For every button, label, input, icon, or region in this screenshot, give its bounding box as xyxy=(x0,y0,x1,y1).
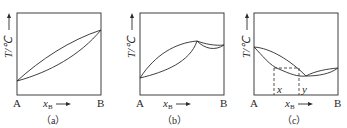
x-axis-arrow-icon xyxy=(56,102,71,106)
panel-caption: （c） xyxy=(282,115,306,126)
y-axis-label: T/℃ xyxy=(125,35,137,58)
x-axis-label: xB xyxy=(162,97,173,111)
vapor-curve xyxy=(17,30,101,81)
liquid-curve xyxy=(17,30,101,81)
left-end-label: A xyxy=(136,97,144,109)
plot-frame xyxy=(17,13,101,95)
liquid-curve-right xyxy=(306,68,338,76)
plot-frame xyxy=(140,13,224,95)
panel-caption: （b） xyxy=(162,115,187,126)
left-end-label: A xyxy=(250,97,258,109)
y-axis-arrow-icon xyxy=(245,13,249,30)
y-axis-arrow-icon xyxy=(7,13,11,30)
liquid-curve-left xyxy=(140,41,197,78)
x-axis-arrow-icon xyxy=(298,102,313,106)
panel-a: T/℃ A B xB （a） xyxy=(2,13,104,126)
plot-frame xyxy=(254,13,338,95)
panel-b: T/℃ A B xB （b） xyxy=(125,13,227,126)
tie-line-y-label: y xyxy=(301,83,307,95)
phase-diagram-figure: T/℃ A B xB （a） T/℃ A B xB xyxy=(0,0,347,128)
vapor-curve-left xyxy=(140,41,197,78)
x-axis-label: xB xyxy=(42,97,53,111)
x-axis-label: xB xyxy=(284,97,295,111)
right-end-label: B xyxy=(220,97,227,109)
panel-c: x y T/℃ A B xB （c） xyxy=(240,13,341,126)
y-axis-arrow-icon xyxy=(130,13,134,30)
vapor-curve-left xyxy=(254,47,306,76)
right-end-label: B xyxy=(97,97,104,109)
panel-caption: （a） xyxy=(41,115,65,126)
x-axis-arrow-icon xyxy=(176,102,191,106)
tie-line-x-label: x xyxy=(276,83,282,95)
right-end-label: B xyxy=(334,97,341,109)
y-axis-label: T/℃ xyxy=(2,35,14,58)
liquid-curve-left xyxy=(254,47,306,76)
left-end-label: A xyxy=(13,97,21,109)
y-axis-label: T/℃ xyxy=(240,35,252,58)
